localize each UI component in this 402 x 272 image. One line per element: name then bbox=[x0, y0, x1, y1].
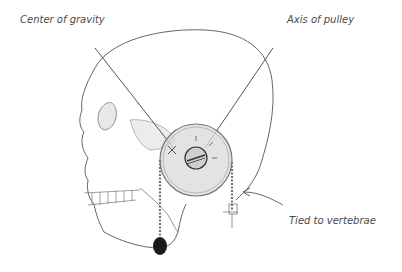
center-of-gravity-pointer bbox=[95, 48, 175, 150]
tied-to-vertebrae-label: Tied to vertebrae bbox=[289, 215, 376, 226]
hanging-weight bbox=[153, 237, 167, 255]
tied-arrow bbox=[244, 192, 283, 205]
skull-pulley-diagram bbox=[0, 0, 402, 272]
vertebra-tie bbox=[223, 204, 238, 228]
eye-socket bbox=[98, 103, 116, 131]
center-of-gravity-label: Center of gravity bbox=[20, 14, 105, 25]
axis-of-pulley-label: Axis of pulley bbox=[287, 14, 354, 25]
